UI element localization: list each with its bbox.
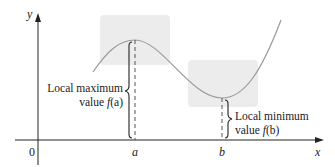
local-min-highlight-box [188, 60, 258, 107]
local-max-annotation: Local maximum value f(a) [45, 83, 123, 108]
local-max-label-line2: value f(a) [45, 97, 123, 109]
y-axis-label: y [27, 8, 32, 20]
y-axis-arrow-icon [35, 13, 41, 22]
origin-label: 0 [29, 146, 35, 158]
local-max-value-prefix: value [79, 96, 107, 108]
local-min-value-prefix: value [235, 124, 263, 136]
local-max-label-line1: Local maximum [45, 83, 123, 95]
local-extrema-diagram: y x 0 a b Local maximum value f(a) Local… [0, 0, 335, 167]
x-axis-arrow-icon [315, 137, 324, 143]
local-min-annotation: Local minimum value f(b) [235, 111, 309, 136]
local-min-function-arg: (b) [266, 124, 279, 136]
local-min-label-line1: Local minimum [235, 111, 309, 123]
tick-label-a: a [132, 146, 138, 158]
x-axis-label: x [315, 146, 320, 158]
local-min-label-line2: value f(b) [235, 125, 309, 137]
tick-label-b: b [219, 146, 225, 158]
local-max-function-arg: (a) [110, 96, 123, 108]
